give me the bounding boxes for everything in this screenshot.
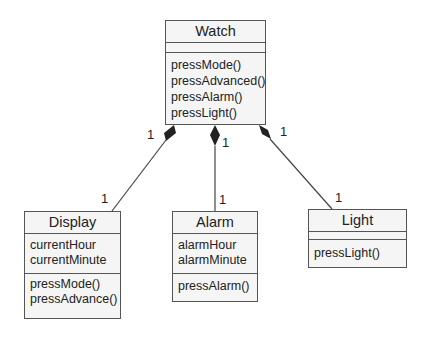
class-alarm: Alarm alarmHour alarmMinute pressAlarm() [172, 211, 258, 302]
attributes-compartment [309, 232, 406, 240]
connector-watch-light [270, 139, 332, 209]
multiplicity-watch-light-part: 1 [335, 190, 342, 205]
operation: pressLight() [171, 105, 260, 121]
class-name: Watch [166, 21, 265, 43]
composition-diamond-icon [164, 125, 176, 141]
operation: pressAlarm() [171, 89, 260, 105]
multiplicity-watch-alarm-part: 1 [219, 192, 226, 207]
class-watch: Watch pressMode() pressAdvanced() pressA… [165, 20, 266, 125]
class-light: Light pressLight() [308, 209, 407, 268]
operation: pressLight() [314, 246, 401, 261]
operation: pressMode() [30, 277, 115, 292]
multiplicity-watch-display-whole: 1 [147, 127, 154, 142]
operation: pressAlarm() [178, 279, 252, 294]
connector-watch-display [112, 140, 166, 211]
attribute: currentMinute [30, 253, 115, 268]
operation: pressMode() [171, 57, 260, 73]
operations-compartment: pressAlarm() [173, 274, 257, 297]
attribute: alarmHour [178, 238, 252, 253]
attribute: alarmMinute [178, 253, 252, 268]
composition-diamond-icon [210, 125, 220, 146]
class-name: Light [309, 210, 406, 232]
operations-compartment: pressMode() pressAdvance() [25, 274, 120, 310]
operations-compartment: pressMode() pressAdvanced() pressAlarm()… [166, 53, 265, 124]
operation: pressAdvance() [30, 292, 115, 307]
class-display: Display currentHour currentMinute pressM… [24, 211, 121, 319]
attributes-compartment: alarmHour alarmMinute [173, 234, 257, 274]
class-name: Display [25, 212, 120, 234]
multiplicity-watch-display-part: 1 [101, 191, 108, 206]
operation: pressAdvanced() [171, 73, 260, 89]
attributes-compartment: currentHour currentMinute [25, 234, 120, 274]
attribute: currentHour [30, 238, 115, 253]
attributes-compartment [166, 43, 265, 53]
operations-compartment: pressLight() [309, 240, 406, 264]
composition-diamond-icon [259, 125, 271, 139]
multiplicity-watch-light-whole: 1 [280, 124, 287, 139]
class-name: Alarm [173, 212, 257, 234]
multiplicity-watch-alarm-whole: 1 [222, 135, 229, 150]
